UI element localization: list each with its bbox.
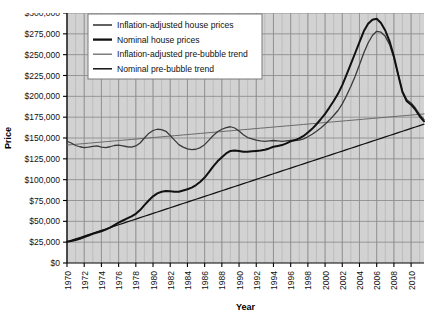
x-axis-tick-label: 2004: [355, 271, 365, 290]
x-axis-tick-label: 1990: [235, 271, 245, 290]
x-axis-tick-label: 1984: [183, 271, 193, 290]
x-axis-tick-label: 1982: [166, 271, 176, 290]
chart-legend: Inflation-adjusted house pricesNominal h…: [88, 14, 262, 79]
y-axis-tick-label: $225,000: [25, 71, 61, 81]
y-axis-tick-label: $150,000: [25, 133, 61, 143]
y-axis-tick-label: $200,000: [25, 91, 61, 101]
x-axis-tick-label: 1980: [149, 271, 159, 290]
x-axis-tick-label: 1972: [80, 271, 90, 290]
y-axis-tick-label: $0: [51, 258, 61, 268]
y-axis-tick-label: $250,000: [25, 50, 61, 60]
y-axis-tick-label: $75,000: [29, 196, 60, 206]
x-axis-tick-label: 2002: [338, 271, 348, 290]
x-axis-tick-label: 1996: [286, 271, 296, 290]
x-axis-tick-label: 1974: [97, 271, 107, 290]
x-axis-tick-label: 2006: [372, 271, 382, 290]
y-axis-tick-label: $100,000: [25, 175, 61, 185]
legend-label-0: Inflation-adjusted house prices: [117, 20, 234, 30]
y-axis-tick-label: $25,000: [29, 237, 60, 247]
x-axis-tick-label: 1976: [114, 271, 124, 290]
x-axis-tick-label: 1988: [217, 271, 227, 290]
x-axis-tick-label: 2008: [389, 271, 399, 290]
x-axis-tick-label: 1998: [303, 271, 313, 290]
y-axis-title: Price: [3, 127, 13, 149]
chart-canvas: $0$25,000$50,000$75,000$100,000$125,000$…: [0, 0, 436, 322]
y-axis-tick-label: $275,000: [25, 29, 61, 39]
x-axis-tick-label: 1970: [63, 271, 73, 290]
x-axis-title: Year: [236, 302, 256, 312]
house-price-chart: $0$25,000$50,000$75,000$100,000$125,000$…: [0, 0, 436, 322]
x-axis-tick-label: 1986: [200, 271, 210, 290]
x-axis-tick-label: 2000: [321, 271, 331, 290]
y-axis-tick-label: $50,000: [29, 216, 60, 226]
x-axis-tick-label: 2010: [407, 271, 417, 290]
x-axis-tick-label: 1978: [131, 271, 141, 290]
x-axis-tick-label: 1994: [269, 271, 279, 290]
legend-label-1: Nominal house prices: [117, 35, 200, 45]
legend-label-2: Inflation-adjusted pre-bubble trend: [117, 49, 248, 59]
top-mask: [0, 0, 436, 13]
x-axis-tick-label: 1992: [252, 271, 262, 290]
y-axis-tick-label: $175,000: [25, 112, 61, 122]
y-axis-tick-label: $125,000: [25, 154, 61, 164]
legend-label-3: Nominal pre-bubble trend: [117, 64, 214, 74]
